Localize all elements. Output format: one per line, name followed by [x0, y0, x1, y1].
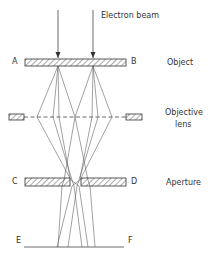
- electron-beam-arrows: [56, 10, 96, 58]
- point-label-c: C: [12, 178, 18, 186]
- point-label-a: A: [12, 58, 17, 66]
- objective-label-line2: lens: [175, 121, 191, 129]
- aperture-left-block: [25, 178, 70, 186]
- lens-right-block: [126, 114, 142, 120]
- electron-beam-label: Electron beam: [101, 12, 159, 20]
- object-label: Object: [167, 59, 193, 67]
- point-label-e: E: [16, 237, 21, 245]
- aperture: [25, 178, 126, 186]
- lens-left-block: [9, 114, 24, 120]
- aperture-label: Aperture: [166, 179, 201, 187]
- rays-right-point: [57, 66, 112, 247]
- point-label-f: F: [128, 237, 133, 245]
- objective-label-line1: Objective: [165, 109, 203, 117]
- point-label-b: B: [131, 58, 137, 66]
- aperture-right-block: [81, 178, 126, 186]
- object-plate: [25, 59, 126, 66]
- point-label-d: D: [131, 178, 137, 186]
